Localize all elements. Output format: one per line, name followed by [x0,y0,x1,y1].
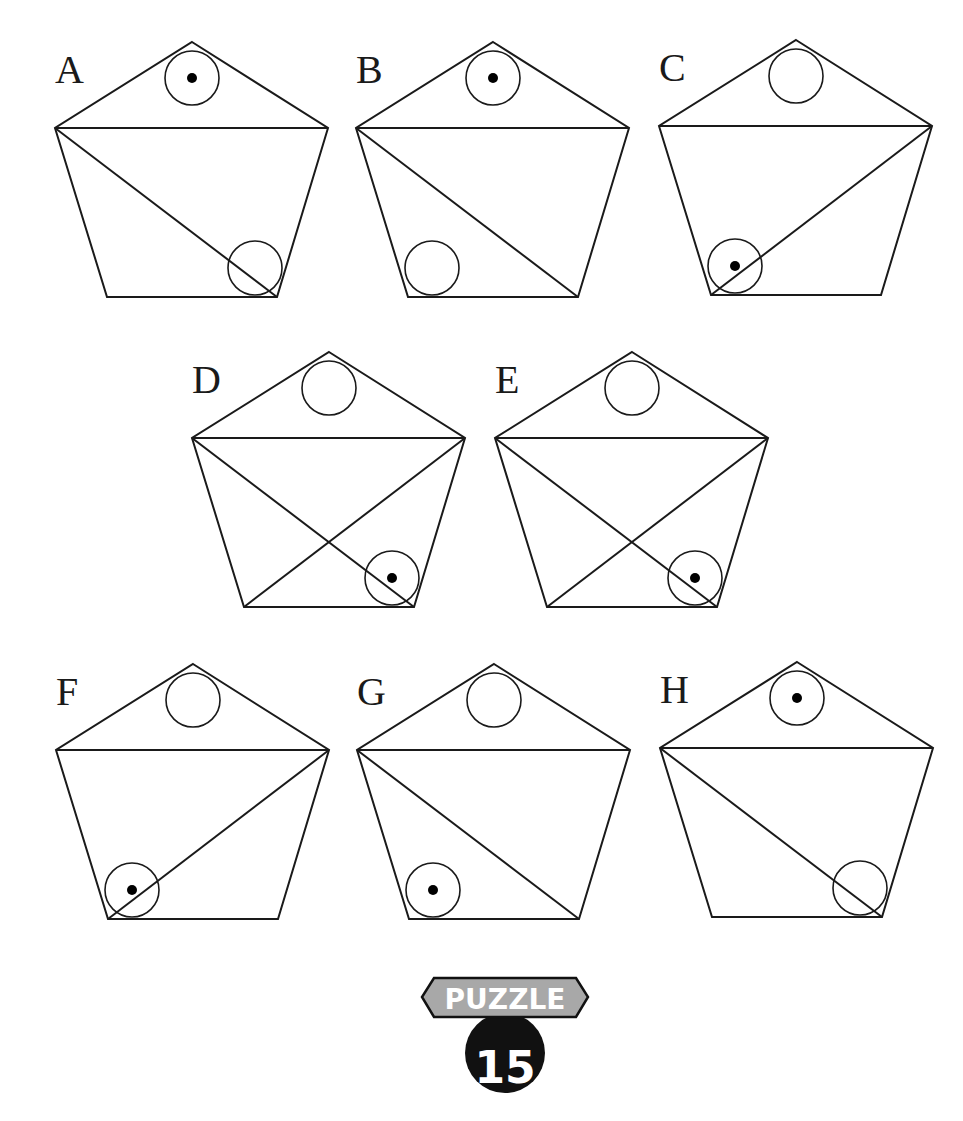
pentagon-diagram [192,352,472,612]
pentagon-diagram [356,42,636,302]
diagonal-tl-br [192,438,414,607]
dot-marker [488,73,498,83]
pentagon-outline [192,352,465,607]
badge-shape: PUZZLE 15 [420,975,590,1095]
pentagon-outline [495,352,768,607]
pentagon-diagram [56,664,336,924]
diagonal-tr-bl [547,438,768,607]
puzzle-badge: PUZZLE 15 [420,975,590,1095]
pentagon-diagram [55,42,335,302]
pentagon-outline [357,664,630,919]
diagonal-tl-br [660,748,882,917]
top-circle [302,361,356,415]
diagonal-tl-br [495,438,717,607]
bottom-right-circle [833,861,887,915]
diagonal-tr-bl [244,438,465,607]
diagonal-tl-br [357,750,579,919]
dot-marker [690,573,700,583]
diagonal-tr-bl [108,750,329,919]
dot-marker [127,885,137,895]
top-circle [605,361,659,415]
top-circle [166,673,220,727]
top-circle [769,49,823,103]
diagonal-tl-br [356,128,578,297]
pentagon-outline [56,664,329,919]
dot-marker [187,73,197,83]
pentagon-diagram [495,352,775,612]
top-circle [467,673,521,727]
pentagon-outline [659,40,932,295]
bottom-left-circle [405,241,459,295]
badge-label: PUZZLE [445,983,566,1016]
pentagon-diagram [660,662,940,922]
pentagon-diagram [357,664,637,924]
dot-marker [792,693,802,703]
dot-marker [387,573,397,583]
pentagon-diagram [659,40,939,300]
dot-marker [428,885,438,895]
diagonal-tl-br [55,128,277,297]
dot-marker [730,261,740,271]
bottom-right-circle [228,241,282,295]
badge-number: 15 [474,1042,535,1093]
diagonal-tr-bl [711,126,932,295]
